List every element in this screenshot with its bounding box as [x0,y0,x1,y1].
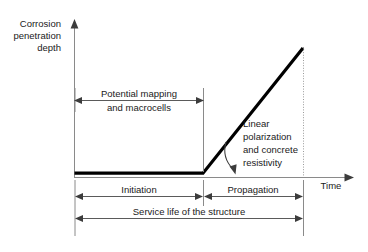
slope-callout-line3: and concrete [243,144,298,155]
y-axis-arrowhead [71,19,79,29]
slope-callout-curved-arrow [225,142,237,175]
y-axis-label-line3: depth [37,42,61,53]
slope-callout-line1: Linear [243,118,269,129]
x-axis-label: Time [321,180,342,191]
slope-callout-line2: polarization [243,131,292,142]
phase-propagation-label: Propagation [227,184,278,195]
diagram-svg: Corrosion penetration depth Time Potenti… [0,0,368,252]
y-axis-label-line2: penetration [13,30,61,41]
x-axis-arrowhead [345,174,355,182]
y-axis-label-line1: Corrosion [20,18,61,29]
potential-mapping-label-line1: Potential mapping [101,88,177,99]
phase-initiation-label: Initiation [121,184,156,195]
service-life-label: Service life of the structure [133,206,245,217]
slope-callout-line4: resistivity [243,157,282,168]
potential-mapping-label-line2: and macrocells [107,102,171,113]
corrosion-diagram-figure: Corrosion penetration depth Time Potenti… [0,0,368,252]
